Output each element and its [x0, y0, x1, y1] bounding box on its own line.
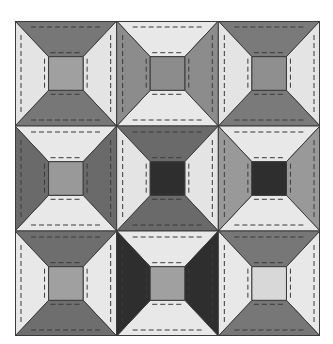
quilt-block-r2-c2 [117, 126, 219, 231]
quilt-block-r3-c2 [117, 231, 219, 336]
center-square [252, 162, 287, 196]
center-square [49, 267, 84, 301]
quilt-block-r1-c3 [218, 21, 320, 126]
quilt-grid [15, 21, 320, 336]
quilt-block-r3-c3 [218, 231, 320, 336]
center-square [150, 267, 185, 301]
center-square [252, 267, 287, 301]
center-square [150, 162, 185, 196]
center-square [49, 57, 84, 91]
quilt-svg [15, 21, 320, 336]
quilt-block-r2-c3 [218, 126, 320, 231]
quilt-block-r1-c1 [15, 21, 117, 126]
quilt-block-r2-c1 [15, 126, 117, 231]
center-square [252, 57, 287, 91]
quilt-block-r3-c1 [15, 231, 117, 336]
quilt-block-r1-c2 [117, 21, 219, 126]
center-square [150, 57, 185, 91]
center-square [49, 162, 84, 196]
